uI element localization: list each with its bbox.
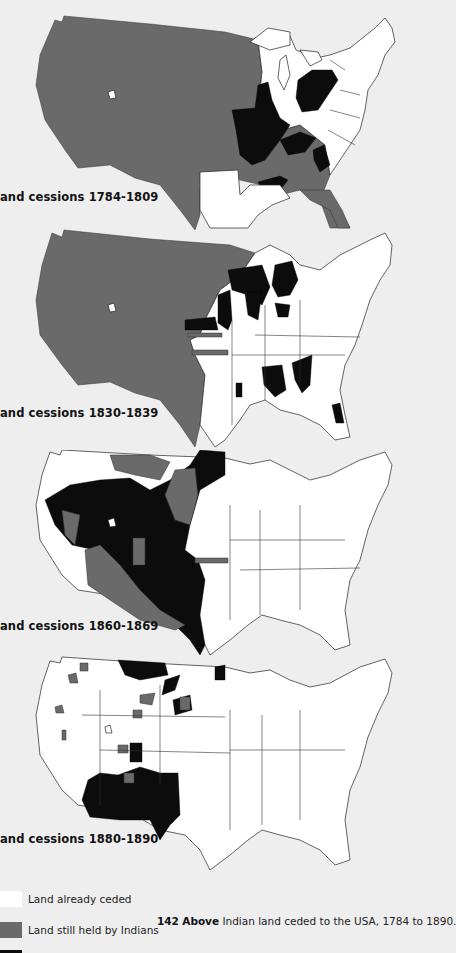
legend-label-ceded: Land already ceded	[28, 893, 132, 905]
map-title-1860-1869: and cessions 1860-1869	[0, 619, 158, 633]
map-title-1830-1839: and cessions 1830-1839	[0, 406, 158, 420]
caption-text: Indian land ceded to the USA, 1784 to 18…	[222, 915, 456, 927]
map-panel-1860-1869: and cessions 1860-1869	[0, 450, 414, 660]
map-title-1880-1890: and cessions 1880-1890	[0, 832, 158, 846]
map-title-1784-1809: and cessions 1784-1809	[0, 190, 158, 204]
legend-swatch-ceded	[0, 891, 22, 907]
caption-lead: Above	[182, 915, 219, 927]
legend-label-held: Land still held by Indians	[28, 924, 159, 936]
us-map-1830-1839	[0, 225, 414, 455]
legend-item-ceded: Land already ceded	[0, 891, 132, 907]
legend-item-held: Land still held by Indians	[0, 922, 159, 938]
map-panel-1880-1890: and cessions 1880-1890	[0, 655, 414, 875]
figure-number: 142	[157, 915, 179, 927]
map-panel-1830-1839: and cessions 1830-1839	[0, 225, 414, 455]
map-panel-1784-1809: and cessions 1784-1809	[0, 0, 414, 230]
figure-caption: 142 Above Indian land ceded to the USA, …	[157, 915, 456, 927]
legend-swatch-held	[0, 922, 22, 938]
